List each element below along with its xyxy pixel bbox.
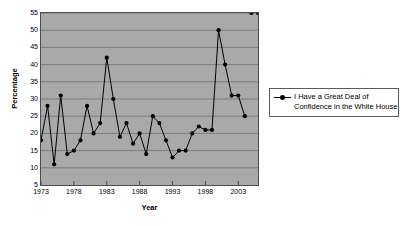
plot-area <box>40 12 259 186</box>
y-tick-label: 40 <box>16 61 38 69</box>
legend-item: I Have a Great Deal of Confidence in the… <box>274 92 394 112</box>
data-point <box>111 97 115 101</box>
data-point <box>72 149 76 153</box>
data-point <box>164 138 168 142</box>
data-point <box>243 114 247 118</box>
data-point <box>59 93 63 97</box>
legend-line-marker-icon <box>274 93 291 102</box>
x-tick-label: 1998 <box>188 188 222 195</box>
data-point <box>184 149 188 153</box>
data-point <box>236 93 240 97</box>
data-point <box>197 124 201 128</box>
y-tick-label: 20 <box>16 129 38 137</box>
data-point <box>78 138 82 142</box>
data-point <box>223 63 227 67</box>
x-tick-label: 1993 <box>156 188 190 195</box>
data-point <box>249 13 253 15</box>
data-point <box>216 28 220 32</box>
data-point <box>256 13 258 15</box>
x-tick-label: 1988 <box>123 188 157 195</box>
data-point <box>138 131 142 135</box>
y-tick-label: 45 <box>16 43 38 51</box>
data-point <box>190 131 194 135</box>
data-point <box>144 152 148 156</box>
series-line <box>41 30 245 164</box>
chart-container: Percentage 555045403530252015105 1973197… <box>0 0 411 226</box>
data-point <box>151 114 155 118</box>
chart-legend: I Have a Great Deal of Confidence in the… <box>269 88 399 117</box>
x-tick-label: 1983 <box>90 188 124 195</box>
data-point <box>98 121 102 125</box>
data-point <box>170 155 174 159</box>
y-tick-label: 50 <box>16 26 38 34</box>
data-point <box>45 104 49 108</box>
x-tick-label: 1973 <box>24 188 58 195</box>
y-tick-label: 10 <box>16 164 38 172</box>
data-point <box>131 142 135 146</box>
series-canvas <box>41 13 258 185</box>
x-tick-label: 1978 <box>57 188 91 195</box>
x-tick-label: 2003 <box>221 188 255 195</box>
data-point <box>230 93 234 97</box>
data-point <box>52 162 56 166</box>
legend-label-line2: Confidence in the White House <box>294 102 397 111</box>
y-tick-label: 35 <box>16 78 38 86</box>
legend-label: I Have a Great Deal of Confidence in the… <box>294 92 397 112</box>
data-point <box>177 149 181 153</box>
data-point <box>41 138 43 142</box>
data-point <box>203 128 207 132</box>
data-point <box>210 128 214 132</box>
y-tick-label: 25 <box>16 112 38 120</box>
data-point <box>92 131 96 135</box>
data-point <box>65 152 69 156</box>
x-axis-title: Year <box>40 203 259 212</box>
legend-label-line1: I Have a Great Deal of <box>294 92 369 101</box>
data-point <box>85 104 89 108</box>
data-point <box>157 121 161 125</box>
data-point <box>124 121 128 125</box>
data-point <box>118 135 122 139</box>
y-tick-label: 30 <box>16 95 38 103</box>
y-tick-label: 55 <box>16 9 38 17</box>
y-tick-label: 15 <box>16 147 38 155</box>
data-point <box>105 56 109 60</box>
